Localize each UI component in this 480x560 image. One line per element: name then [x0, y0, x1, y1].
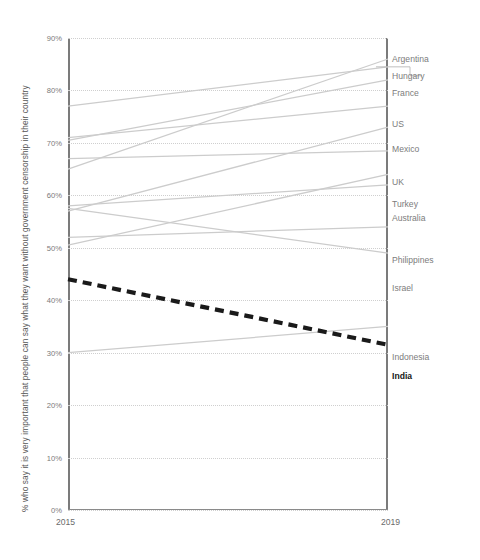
series-label-philippines: Philippines	[392, 255, 434, 265]
series-label-us: US	[392, 119, 404, 129]
series-label-india: India	[392, 371, 412, 381]
slope-line-mexico	[68, 127, 388, 211]
x-tick-2015: 2015	[56, 517, 75, 527]
series-label-list: ArgentinaHungaryFranceUSMexicoUKTurkeyAu…	[392, 38, 480, 510]
gridline-0	[68, 510, 388, 511]
slope-chart: % who say it is very important that peop…	[0, 0, 480, 560]
series-label-france: France	[392, 88, 419, 98]
y-axis-title: % who say it is very important that peop…	[14, 12, 36, 512]
slope-line-israel	[68, 208, 388, 253]
slope-line-australia	[68, 185, 388, 206]
slope-line-argentina	[68, 59, 388, 169]
series-label-mexico: Mexico	[392, 144, 419, 154]
y-tick-70: 70%	[47, 138, 62, 147]
slope-line-hungary	[68, 67, 388, 106]
y-tick-20: 20%	[47, 401, 62, 410]
series-lines	[68, 38, 388, 510]
y-tick-60: 60%	[47, 191, 62, 200]
series-label-indonesia: Indonesia	[392, 352, 429, 362]
series-label-hungary: Hungary	[392, 71, 424, 81]
slope-line-indonesia	[68, 326, 388, 352]
y-tick-30: 30%	[47, 348, 62, 357]
y-tick-40: 40%	[47, 296, 62, 305]
slope-line-india	[68, 279, 388, 345]
series-label-uk: UK	[392, 177, 404, 187]
series-label-israel: Israel	[392, 283, 413, 293]
slope-line-france	[68, 80, 388, 140]
x-tick-2019: 2019	[381, 517, 400, 527]
y-tick-10: 10%	[47, 453, 62, 462]
y-tick-50: 50%	[47, 243, 62, 252]
series-label-australia: Australia	[392, 213, 425, 223]
slope-line-philippines	[68, 227, 388, 237]
slope-line-turkey	[68, 174, 388, 245]
slope-line-us	[68, 106, 388, 137]
y-tick-0: 0%	[51, 506, 62, 515]
series-label-turkey: Turkey	[392, 199, 418, 209]
plot-area: 0%10%20%30%40%50%60%70%80%90% 2015 2019	[68, 38, 388, 510]
series-label-argentina: Argentina	[392, 54, 429, 64]
y-tick-80: 80%	[47, 86, 62, 95]
y-tick-90: 90%	[47, 34, 62, 43]
